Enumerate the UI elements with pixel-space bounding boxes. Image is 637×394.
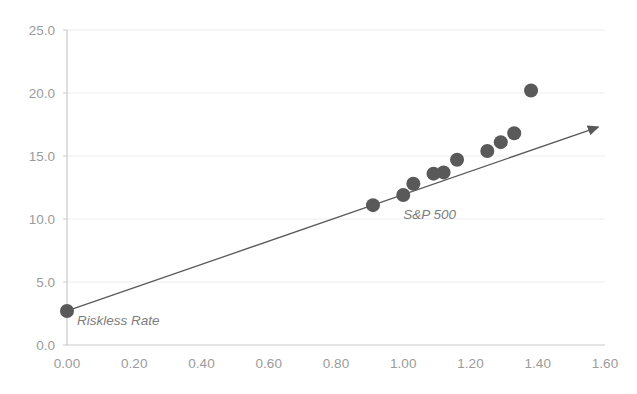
x-axis-tick-labels: 0.000.200.400.600.801.001.201.401.60 [54,356,618,371]
y-tick-label-10.0: 10.0 [29,212,55,227]
data-point-assets-1.25 [480,144,494,158]
y-tick-label-0.0: 0.0 [36,338,55,353]
y-tick-label-20.0: 20.0 [29,86,55,101]
x-tick-label-1.00: 1.00 [390,356,416,371]
data-point-assets-1.12 [437,165,451,179]
y-tick-label-25.0: 25.0 [29,23,55,38]
x-tick-label-1.40: 1.40 [525,356,551,371]
sp500-label: S&P 500 [403,207,456,222]
data-point-assets-1.33 [507,126,521,140]
x-tick-label-1.60: 1.60 [592,356,618,371]
x-tick-label-0.60: 0.60 [256,356,282,371]
data-point-assets-1.16 [450,153,464,167]
x-tick-label-0.20: 0.20 [121,356,147,371]
data-point-assets-1.38 [524,83,538,97]
data-point-riskless-rate-0.00 [60,304,74,318]
data-point-assets-0.91 [366,198,380,212]
x-tick-label-0.40: 0.40 [188,356,214,371]
x-tick-label-0.00: 0.00 [54,356,80,371]
y-tick-label-15.0: 15.0 [29,149,55,164]
x-tick-label-1.20: 1.20 [457,356,483,371]
chart-figure: 0.05.010.015.020.025.0 0.000.200.400.600… [0,0,637,394]
x-tick-label-0.80: 0.80 [323,356,349,371]
data-point-assets-1.00 [396,188,410,202]
data-point-assets-1.03 [406,177,420,191]
y-tick-label-5.0: 5.0 [36,275,55,290]
scatter-plot: 0.05.010.015.020.025.0 0.000.200.400.600… [0,0,637,394]
data-point-assets-1.29 [494,135,508,149]
chart-background [0,0,637,394]
riskless-rate-label: Riskless Rate [77,313,160,328]
